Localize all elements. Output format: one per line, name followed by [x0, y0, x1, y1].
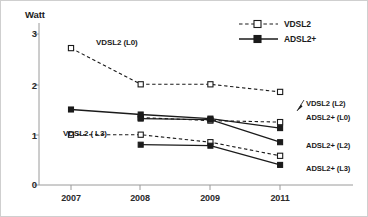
data-point-marker: [208, 117, 213, 122]
data-point-marker: [278, 89, 283, 94]
series-label-adsl2plus-l3: ADSL2+ (L3): [306, 164, 350, 173]
y-tick-label-1: 1: [25, 130, 37, 141]
data-point-marker: [138, 132, 143, 137]
data-point-marker: [138, 142, 143, 147]
data-point-marker: [278, 126, 283, 131]
series-label-adsl2plus-l2: ADSL2+ (L2): [306, 141, 350, 150]
data-point-marker: [278, 140, 283, 145]
data-point-marker: [68, 46, 73, 51]
x-tick-label-2009: 2009: [190, 193, 230, 203]
y-tick-label-0: 0: [25, 179, 37, 190]
x-tick-label-2008: 2008: [120, 193, 160, 203]
data-point-marker: [138, 116, 143, 121]
chart-legend-marks: [239, 21, 278, 43]
chart-series-layer: [68, 46, 282, 168]
series-label-vdsl2-l2: VDSL2 (L2): [306, 99, 346, 108]
series-line: [71, 48, 280, 92]
series-label-adsl2plus-l0: ADSL2+ (L0): [306, 113, 350, 122]
chart-leader-lines: [297, 100, 304, 111]
x-tick-label-2011: 2011: [260, 193, 300, 203]
series-label-vdsl2-l3: VDSL2 ( L3): [63, 129, 107, 138]
data-point-marker: [278, 120, 283, 125]
y-tick-label-3: 3: [25, 28, 37, 39]
legend-label-vdsl2: VDSL2: [284, 19, 311, 29]
y-tick-label-2: 2: [25, 80, 37, 91]
data-point-marker: [278, 162, 283, 167]
data-point-marker: [278, 153, 283, 158]
data-point-marker: [138, 82, 143, 87]
data-point-marker: [69, 107, 74, 112]
data-point-marker: [208, 82, 213, 87]
x-tick-label-2007: 2007: [51, 193, 91, 203]
y-axis-label: Watt: [25, 9, 45, 20]
legend-label-adsl2plus: ADSL2+: [284, 34, 316, 44]
chart-figure: Watt 3 2 1 0 2007 2008 2009 2011 VDSL2 A…: [0, 0, 368, 217]
data-point-marker: [208, 143, 213, 148]
series-label-vdsl2-l0: VDSL2 (L0): [96, 38, 138, 47]
